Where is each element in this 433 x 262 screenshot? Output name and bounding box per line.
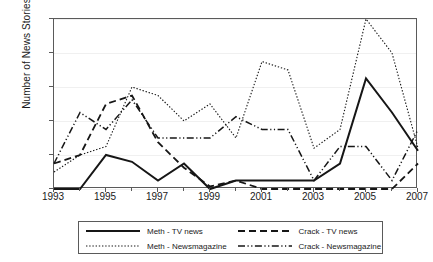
series-svg xyxy=(54,19,418,189)
plot-area xyxy=(53,18,417,188)
legend-item-meth-newsmagazine: Meth - Newsmagazine xyxy=(79,238,231,254)
x-axis-tick-mark-minor xyxy=(131,188,132,191)
x-axis-tick-mark-minor xyxy=(79,188,80,191)
legend-label: Meth - Newsmagazine xyxy=(141,242,227,251)
legend-key-dashdot-icon xyxy=(237,241,293,251)
x-axis-tick-label: 2005 xyxy=(343,191,387,202)
x-axis-tick-mark xyxy=(157,188,158,192)
x-axis-tick-label: 1997 xyxy=(135,191,179,202)
series-line xyxy=(54,79,418,190)
series-line xyxy=(54,96,418,190)
x-axis-tick-mark xyxy=(365,188,366,192)
x-axis-tick-label: 2003 xyxy=(291,191,335,202)
x-axis-tick-label: 1993 xyxy=(31,191,75,202)
legend-key-solid-icon xyxy=(85,226,141,236)
legend-key-dotted-icon xyxy=(85,241,141,251)
legend-item-crack-tv-news: Crack - TV news xyxy=(231,223,383,239)
x-axis-tick-mark-minor xyxy=(287,188,288,191)
legend-item-meth-tv-news: Meth - TV news xyxy=(79,223,231,239)
x-axis-tick-label: 2007 xyxy=(395,191,433,202)
x-axis-tick-mark-minor xyxy=(391,188,392,191)
x-axis-tick-label: 2001 xyxy=(239,191,283,202)
legend-label: Crack - TV news xyxy=(293,227,358,236)
legend-row-1: Meth - TV news Crack - TV news xyxy=(79,223,382,239)
x-axis-tick-mark xyxy=(209,188,210,192)
x-axis-tick-mark xyxy=(417,188,418,192)
x-axis-tick-mark xyxy=(53,188,54,192)
y-axis-title: Number of News Stories xyxy=(21,0,32,124)
x-axis-tick-mark xyxy=(313,188,314,192)
legend-item-crack-newsmagazine: Crack - Newsmagazine xyxy=(231,238,383,254)
chart-legend: Meth - TV news Crack - TV news Meth - Ne… xyxy=(78,221,383,254)
x-axis-tick-mark xyxy=(261,188,262,192)
series-layer xyxy=(54,19,416,187)
x-axis-tick-mark-minor xyxy=(235,188,236,191)
series-line xyxy=(54,19,418,172)
legend-key-dashed-icon xyxy=(237,226,293,236)
x-axis-tick-mark-minor xyxy=(183,188,184,191)
x-axis-tick-label: 1995 xyxy=(83,191,127,202)
x-axis-tick-mark xyxy=(105,188,106,192)
legend-label: Crack - Newsmagazine xyxy=(293,242,382,251)
x-axis-tick-mark-minor xyxy=(339,188,340,191)
x-axis-tick-label: 1999 xyxy=(187,191,231,202)
legend-label: Meth - TV news xyxy=(141,227,203,236)
legend-row-2: Meth - Newsmagazine Crack - Newsmagazine xyxy=(79,238,382,254)
